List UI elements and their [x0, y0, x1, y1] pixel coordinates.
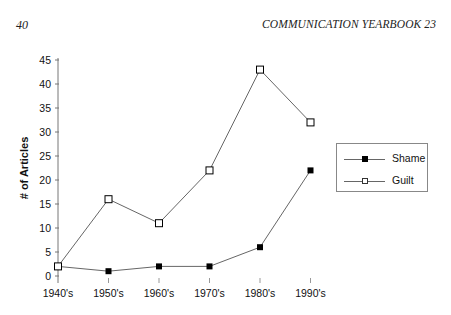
filled-square-icon [207, 263, 213, 269]
hollow-square-icon [257, 66, 264, 73]
y-tick-label: 45 [39, 54, 51, 66]
hollow-square-icon [362, 178, 368, 184]
hollow-square-icon [105, 196, 112, 203]
y-tick-label: 5 [45, 246, 51, 258]
legend-item-shame: Shame [337, 153, 427, 165]
x-tick-label: 1970's [194, 287, 225, 299]
legend-label-guilt: Guilt [392, 174, 414, 186]
x-tick-label: 1950's [93, 287, 124, 299]
hollow-square-icon [55, 263, 62, 270]
filled-square-icon [156, 263, 162, 269]
y-tick-label: 20 [39, 174, 51, 186]
series-line-shame [58, 170, 311, 271]
y-tick-label: 0 [45, 270, 51, 282]
filled-square-icon [308, 167, 314, 173]
hollow-square-icon [156, 220, 163, 227]
series-line-guilt [58, 70, 311, 267]
y-tick-label: 25 [39, 150, 51, 162]
filled-square-icon [106, 268, 112, 274]
legend-item-guilt: Guilt [337, 175, 427, 187]
filled-square-icon [362, 156, 368, 162]
legend: Shame Guilt [336, 143, 428, 192]
x-tick-label: 1940's [43, 287, 74, 299]
x-tick-label: 1960's [144, 287, 175, 299]
legend-label-shame: Shame [392, 152, 425, 164]
filled-square-icon [257, 244, 263, 250]
x-tick-label: 1980's [245, 287, 276, 299]
y-tick-label: 10 [39, 222, 51, 234]
hollow-square-icon [206, 167, 213, 174]
y-tick-label: 35 [39, 102, 51, 114]
hollow-square-icon [307, 119, 314, 126]
x-tick-label: 1990's [295, 287, 326, 299]
y-tick-label: 40 [39, 78, 51, 90]
y-tick-label: 15 [39, 198, 51, 210]
y-tick-label: 30 [39, 126, 51, 138]
